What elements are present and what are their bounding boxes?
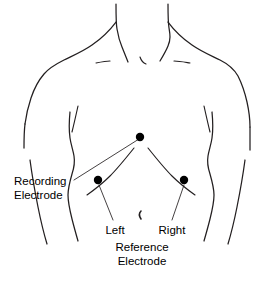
torso-left-flank-line: [68, 112, 78, 241]
costal-margin-right-line: [148, 148, 195, 195]
reference-electrode-label-line2: Electrode: [118, 255, 167, 267]
recording-electrode-dot[interactable]: [136, 133, 144, 141]
torso-right-flank-line: [204, 112, 214, 241]
right-label: Right: [159, 224, 187, 236]
body-outline-group: [24, 4, 250, 244]
leader-line-left: [99, 185, 113, 220]
navel-icon: [140, 211, 142, 219]
clavicle-left-line: [96, 61, 110, 63]
leader-lines-group: [74, 139, 184, 220]
right-reference-electrode-dot[interactable]: [180, 176, 188, 184]
costal-margin-left-line: [87, 148, 134, 195]
armpit-fold-right-line: [204, 106, 210, 132]
arm-left-line: [24, 124, 25, 148]
electrode-placement-diagram: Recording Electrode Left Right Reference…: [0, 0, 259, 283]
recording-electrode-label-line2: Electrode: [14, 189, 63, 201]
neck-right-line: [160, 4, 170, 61]
recording-electrode-label-line1: Recording: [14, 175, 66, 187]
left-label: Left: [105, 224, 125, 236]
arm-inner-right-line: [228, 160, 245, 244]
clavicle-right-line: [174, 61, 190, 63]
leader-line-right: [172, 185, 184, 220]
neck-left-line: [116, 4, 128, 62]
sternal-notch-line: [140, 57, 146, 64]
shoulder-left-line: [25, 22, 116, 124]
arm-inner-left-line: [30, 160, 47, 244]
armpit-fold-left-line: [72, 106, 78, 132]
torso-diagram-canvas: Recording Electrode Left Right Reference…: [0, 0, 259, 283]
reference-electrode-label-line1: Reference: [115, 241, 168, 253]
shoulder-right-line: [168, 22, 250, 127]
leader-line-recording: [74, 139, 139, 180]
left-reference-electrode-dot[interactable]: [94, 176, 102, 184]
